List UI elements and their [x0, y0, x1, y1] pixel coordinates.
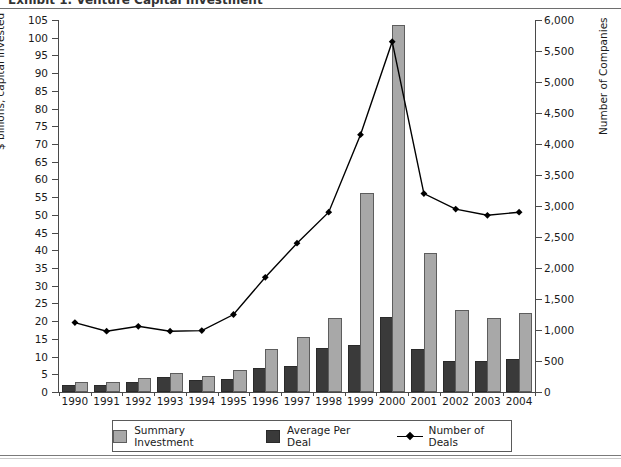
legend-line-marker-icon-number-of-deals	[397, 432, 421, 441]
right-axis-tick-label: 3,500	[544, 170, 574, 180]
left-axis-tick	[52, 303, 58, 304]
number-of-deals-line: 1990: 11201991: 9801992: 10601993: 98019…	[59, 20, 535, 392]
left-axis-tick-label: 45	[4, 228, 48, 238]
top-divider	[0, 8, 621, 9]
left-axis-tick	[52, 392, 58, 393]
right-axis-tick	[536, 175, 542, 176]
right-axis-title: Number of Companies	[597, 0, 609, 135]
left-axis-tick-label: 90	[4, 68, 48, 78]
right-axis-tick	[536, 268, 542, 269]
left-axis-tick-label: 10	[4, 352, 48, 362]
left-axis-tick-label: 60	[4, 174, 48, 184]
deals-polyline	[75, 42, 519, 332]
left-axis-title: $ billions, capital invested	[0, 0, 6, 150]
left-axis-tick-label: 105	[4, 15, 48, 25]
right-axis-tick	[536, 51, 542, 52]
right-axis-tick-label: 6,000	[544, 15, 574, 25]
right-axis-tick	[536, 330, 542, 331]
right-axis-tick	[536, 20, 542, 21]
left-axis-tick-label: 50	[4, 210, 48, 220]
deals-data-point-marker: 1994: 990	[198, 327, 205, 334]
left-axis-tick-label: 55	[4, 192, 48, 202]
deals-data-point-marker: 2001: 3200	[421, 190, 428, 197]
deals-data-point-marker: 2003: 2850	[484, 212, 491, 219]
left-axis-tick	[52, 55, 58, 56]
deals-data-point-marker: 1990: 1120	[72, 319, 79, 326]
left-axis-tick	[52, 126, 58, 127]
left-axis-tick-label: 40	[4, 245, 48, 255]
clipped-exhibit-title: Exhibit 1. Venture Capital Investment	[8, 0, 428, 7]
left-axis-tick	[52, 215, 58, 216]
left-axis-tick-label: 85	[4, 86, 48, 96]
legend-swatch-icon-summary-investment	[113, 430, 127, 443]
bottom-divider	[0, 455, 621, 456]
left-axis-tick	[52, 233, 58, 234]
x-axis-line	[58, 392, 536, 393]
left-axis-tick	[52, 162, 58, 163]
right-axis-tick	[536, 206, 542, 207]
deals-data-point-marker: 1999: 4150	[357, 131, 364, 138]
left-axis-tick-label: 95	[4, 50, 48, 60]
left-axis-tick-label: 65	[4, 157, 48, 167]
left-axis-tick	[52, 38, 58, 39]
bottom-divider-2	[0, 458, 621, 459]
left-axis-tick	[52, 339, 58, 340]
right-axis-tick-label: 5,500	[544, 46, 574, 56]
right-axis-tick-label: 500	[544, 356, 564, 366]
left-axis-tick-label: 70	[4, 139, 48, 149]
legend-item-number-of-deals: Number of Deals	[397, 424, 511, 448]
left-axis-tick-label: 75	[4, 121, 48, 131]
left-axis-tick	[52, 357, 58, 358]
chart-legend: Summary Investment Average Per Deal Numb…	[112, 420, 512, 452]
left-axis-tick	[52, 109, 58, 110]
left-axis-tick-label: 20	[4, 316, 48, 326]
left-axis-tick-label: 25	[4, 298, 48, 308]
chart-figure: Exhibit 1. Venture Capital Investment 05…	[0, 0, 621, 467]
legend-item-average-per-deal: Average Per Deal	[266, 424, 371, 448]
right-axis-tick-label: 3,000	[544, 201, 574, 211]
right-axis-tick	[536, 237, 542, 238]
deals-data-point-marker: 1992: 1060	[135, 323, 142, 330]
left-axis-tick-label: 5	[4, 369, 48, 379]
left-axis-tick-label: 35	[4, 263, 48, 273]
left-axis-tick	[52, 250, 58, 251]
right-axis-tick-label: 1,500	[544, 294, 574, 304]
right-axis-tick-label: 0	[544, 387, 551, 397]
right-axis-tick-label: 1,000	[544, 325, 574, 335]
left-axis-tick	[52, 286, 58, 287]
left-axis-tick	[52, 91, 58, 92]
x-axis-tick-label: 2004	[499, 396, 539, 407]
left-axis-tick	[52, 374, 58, 375]
deals-data-point-marker: 2004: 2900	[516, 209, 523, 216]
left-axis-tick-label: 80	[4, 104, 48, 114]
right-axis-tick	[536, 113, 542, 114]
right-axis-tick-label: 5,000	[544, 77, 574, 87]
left-axis-tick	[52, 179, 58, 180]
left-axis-tick-label: 30	[4, 281, 48, 291]
left-axis-tick	[52, 144, 58, 145]
left-axis-tick-label: 100	[4, 33, 48, 43]
right-axis-tick-label: 2,000	[544, 263, 574, 273]
right-axis-tick	[536, 392, 542, 393]
deals-data-point-marker: 2002: 2950	[452, 206, 459, 213]
left-axis-tick	[52, 73, 58, 74]
right-axis-tick-label: 4,500	[544, 108, 574, 118]
right-axis-tick-label: 2,500	[544, 232, 574, 242]
deals-data-point-marker: 1993: 980	[167, 328, 174, 335]
legend-label-number-of-deals: Number of Deals	[429, 424, 511, 448]
left-axis-tick-label: 15	[4, 334, 48, 344]
x-axis-tick	[535, 392, 536, 396]
legend-label-average-per-deal: Average Per Deal	[287, 424, 371, 448]
right-axis-tick-label: 4,000	[544, 139, 574, 149]
left-axis-tick-label: 0	[4, 387, 48, 397]
deals-data-point-marker: 2000: 5650	[389, 38, 396, 45]
right-axis-tick	[536, 144, 542, 145]
legend-swatch-icon-average-per-deal	[266, 430, 280, 443]
legend-label-summary-investment: Summary Investment	[134, 424, 240, 448]
legend-item-summary-investment: Summary Investment	[113, 424, 240, 448]
right-axis-tick	[536, 82, 542, 83]
right-axis-tick	[536, 299, 542, 300]
right-axis-tick	[536, 361, 542, 362]
left-axis-tick	[52, 268, 58, 269]
left-axis-tick	[52, 197, 58, 198]
